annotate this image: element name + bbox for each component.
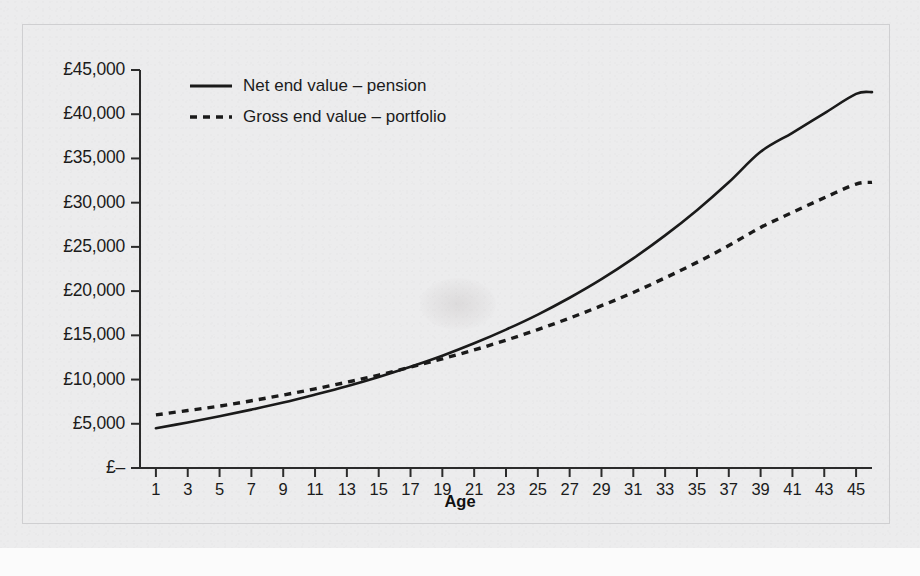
y-axis-ticks <box>131 70 140 468</box>
y-tick-label: £30,000 <box>0 192 125 213</box>
y-tick-label: £– <box>0 457 125 478</box>
legend-label-1: Gross end value – portfolio <box>243 107 446 127</box>
series-line-1 <box>156 182 872 415</box>
y-tick-label: £35,000 <box>0 147 125 168</box>
y-tick-label: £40,000 <box>0 103 125 124</box>
data-series <box>156 92 872 428</box>
legend-label-0: Net end value – pension <box>243 76 426 96</box>
legend-line-samples <box>190 86 232 117</box>
y-tick-label: £15,000 <box>0 324 125 345</box>
y-tick-label: £20,000 <box>0 280 125 301</box>
y-tick-label: £45,000 <box>0 59 125 80</box>
series-line-0 <box>156 92 872 428</box>
axes <box>131 70 872 477</box>
y-tick-label: £10,000 <box>0 369 125 390</box>
y-tick-label: £25,000 <box>0 236 125 257</box>
y-tick-label: £5,000 <box>0 413 125 434</box>
x-axis-ticks <box>156 468 856 477</box>
x-axis-title: Age <box>0 492 920 511</box>
chart-figure: £–£5,000£10,000£15,000£20,000£25,000£30,… <box>0 0 920 576</box>
